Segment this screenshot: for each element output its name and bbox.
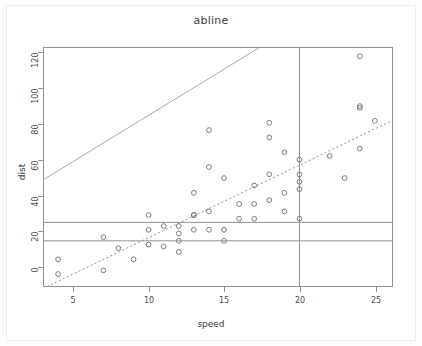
- x-axis-label: speed: [0, 319, 422, 329]
- x-tickmark-25: [376, 287, 377, 292]
- x-tickmark-10: [149, 287, 150, 292]
- y-tick-label-20: 20: [31, 232, 40, 267]
- y-tick-label-0: 0: [31, 268, 40, 303]
- y-axis-label: dist: [17, 164, 27, 180]
- x-tick-label-15: 15: [214, 296, 234, 305]
- x-tickmark-15: [224, 287, 225, 292]
- x-tickmark-20: [300, 287, 301, 292]
- y-tick-label-40: 40: [31, 197, 40, 232]
- y-tick-label-60: 60: [31, 161, 40, 196]
- plot-frame: [43, 47, 393, 287]
- x-tickmark-5: [73, 287, 74, 292]
- y-tick-label-100: 100: [31, 89, 40, 124]
- x-tick-label-25: 25: [366, 296, 386, 305]
- y-tick-label-120: 120: [31, 53, 40, 88]
- plot-page: abline 0 20 40 60 80 100 120 5 10 15 20 …: [0, 0, 422, 346]
- y-tick-label-80: 80: [31, 125, 40, 160]
- plot-title: abline: [0, 14, 422, 27]
- x-tick-label-5: 5: [63, 296, 83, 305]
- x-tick-label-20: 20: [290, 296, 310, 305]
- x-tick-label-10: 10: [139, 296, 159, 305]
